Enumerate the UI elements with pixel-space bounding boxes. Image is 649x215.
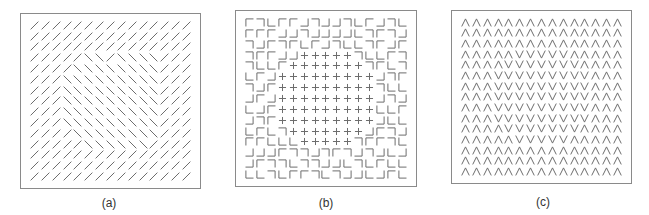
back-slash-line-icon <box>138 139 149 150</box>
forward-slash-line-icon <box>72 52 83 63</box>
chevron-up-icon <box>525 28 536 39</box>
plus-icon <box>353 71 364 82</box>
chevron-up-icon <box>460 70 471 81</box>
chevron-up-icon <box>590 102 601 113</box>
corner-bottom-right-icon <box>255 82 266 93</box>
forward-slash-line-icon <box>29 150 40 161</box>
corner-bottom-left-icon <box>397 137 408 148</box>
forward-slash-line-icon <box>62 42 73 53</box>
back-slash-line-icon <box>116 74 127 85</box>
chevron-down-icon <box>558 134 569 145</box>
chevron-up-icon <box>612 102 623 113</box>
corner-bottom-right-icon <box>321 158 332 169</box>
forward-slash-line-icon <box>149 171 160 182</box>
chevron-up-icon <box>612 134 623 145</box>
corner-bottom-left-icon <box>397 115 408 126</box>
forward-slash-line-icon <box>127 20 138 31</box>
corner-bottom-right-icon <box>375 17 386 28</box>
back-slash-line-icon <box>83 85 94 96</box>
forward-slash-line-icon <box>83 150 94 161</box>
forward-slash-line-icon <box>181 63 192 74</box>
plus-icon <box>331 60 342 71</box>
corner-top-left-icon <box>255 28 266 39</box>
chevron-up-icon <box>612 156 623 167</box>
forward-slash-line-icon <box>40 128 51 139</box>
corner-bottom-right-icon <box>266 71 277 82</box>
forward-slash-line-icon <box>170 42 181 53</box>
chevron-down-icon <box>493 113 504 124</box>
corner-bottom-right-icon <box>397 147 408 158</box>
chevron-up-icon <box>482 28 493 39</box>
chevron-up-icon <box>590 70 601 81</box>
chevron-up-icon <box>601 49 612 60</box>
plus-icon <box>331 126 342 137</box>
corner-top-right-icon <box>353 50 364 61</box>
forward-slash-line-icon <box>159 171 170 182</box>
corner-bottom-right-icon <box>386 39 397 50</box>
chevron-up-icon <box>590 38 601 49</box>
plus-icon <box>321 115 332 126</box>
forward-slash-line-icon <box>62 160 73 171</box>
corner-top-right-icon <box>310 169 321 180</box>
back-slash-line-icon <box>83 63 94 74</box>
corner-bottom-right-icon <box>397 126 408 137</box>
chevron-down-icon <box>503 92 514 103</box>
forward-slash-line-icon <box>62 128 73 139</box>
plus-icon <box>364 93 375 104</box>
plus-icon <box>321 126 332 137</box>
plus-icon <box>310 50 321 61</box>
plus-icon <box>331 82 342 93</box>
forward-slash-line-icon <box>29 52 40 63</box>
chevron-up-icon <box>525 17 536 28</box>
chevron-up-icon <box>471 124 482 135</box>
chevron-up-icon <box>514 166 525 177</box>
corner-top-right-icon <box>255 17 266 28</box>
chevron-down-icon <box>558 81 569 92</box>
chevron-up-icon <box>558 145 569 156</box>
forward-slash-line-icon <box>51 74 62 85</box>
chevron-up-icon <box>601 60 612 71</box>
forward-slash-line-icon <box>105 42 116 53</box>
forward-slash-line-icon <box>83 171 94 182</box>
forward-slash-line-icon <box>29 128 40 139</box>
plus-icon <box>288 82 299 93</box>
chevron-up-icon <box>460 156 471 167</box>
chevron-down-icon <box>547 49 558 60</box>
caption-a: (a) <box>89 196 129 210</box>
back-slash-line-icon <box>105 139 116 150</box>
chevron-up-icon <box>590 145 601 156</box>
chevron-up-icon <box>482 38 493 49</box>
corner-top-left-icon <box>244 137 255 148</box>
forward-slash-line-icon <box>127 31 138 42</box>
chevron-up-icon <box>514 145 525 156</box>
back-slash-line-icon <box>116 106 127 117</box>
corner-bottom-left-icon <box>397 17 408 28</box>
chevron-up-icon <box>612 81 623 92</box>
corner-top-right-icon <box>299 158 310 169</box>
chevron-up-icon <box>493 38 504 49</box>
back-slash-line-icon <box>149 106 160 117</box>
back-slash-line-icon <box>105 106 116 117</box>
corner-top-left-icon <box>310 39 321 50</box>
forward-slash-line-icon <box>149 160 160 171</box>
chevron-up-icon <box>580 166 591 177</box>
plus-icon <box>331 93 342 104</box>
forward-slash-line-icon <box>181 31 192 42</box>
chevron-up-icon <box>547 17 558 28</box>
plus-icon <box>331 137 342 148</box>
plus-icon <box>299 71 310 82</box>
forward-slash-line-icon <box>94 171 105 182</box>
forward-slash-line-icon <box>127 150 138 161</box>
forward-slash-line-icon <box>181 139 192 150</box>
corner-top-left-icon <box>255 126 266 137</box>
chevron-up-icon <box>460 166 471 177</box>
forward-slash-line-icon <box>29 171 40 182</box>
chevron-up-icon <box>514 156 525 167</box>
plus-icon <box>299 93 310 104</box>
chevron-up-icon <box>482 70 493 81</box>
corner-bottom-left-icon <box>255 169 266 180</box>
back-slash-line-icon <box>94 106 105 117</box>
chevron-down-icon <box>536 81 547 92</box>
plus-icon <box>353 126 364 137</box>
chevron-up-icon <box>471 134 482 145</box>
